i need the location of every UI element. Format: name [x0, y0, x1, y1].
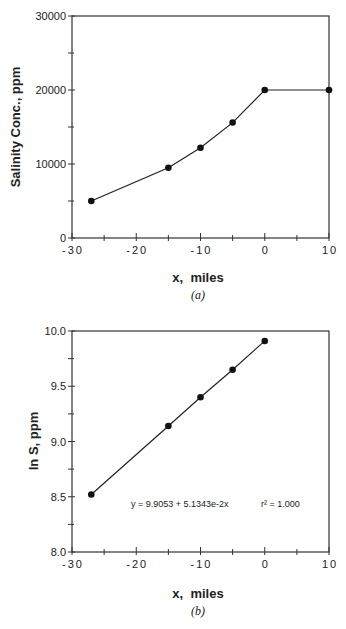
- x-axis-label: x, miles: [172, 586, 223, 601]
- data-point-marker: [197, 394, 204, 401]
- x-tick-label: -20: [126, 244, 148, 256]
- x-tick-label: -20: [126, 558, 148, 570]
- data-point-marker: [88, 491, 95, 498]
- x-tick-labels: -30-20-10010: [62, 558, 338, 570]
- x-tick-label: -30: [62, 558, 84, 570]
- data-point-marker: [165, 164, 172, 171]
- minor-ticks: [68, 331, 329, 555]
- y-tick-labels: 8.08.59.09.510.0: [45, 325, 66, 558]
- data-point-marker: [229, 366, 236, 373]
- x-axis-label: x, miles: [172, 270, 223, 285]
- data-point-marker: [229, 119, 236, 126]
- y-tick-label: 30000: [35, 10, 66, 22]
- y-tick-label: 20000: [35, 84, 66, 96]
- y-axis-label: ln S, ppm: [26, 412, 41, 471]
- data-point-marker: [165, 423, 172, 430]
- x-tick-label: -10: [191, 244, 213, 256]
- chart-panel-b: 8.08.59.09.510.0 -30-20-10010 ln S, ppm …: [26, 325, 338, 618]
- y-tick-labels: 0100002000030000: [35, 10, 66, 244]
- data-point-marker: [326, 87, 333, 94]
- data-series: [88, 338, 268, 498]
- r-squared: r² = 1.000: [261, 499, 300, 509]
- x-tick-labels: -30-20-10010: [62, 244, 338, 256]
- series-line: [91, 341, 264, 495]
- y-tick-label: 10000: [35, 158, 66, 170]
- y-tick-label: 8.5: [51, 491, 66, 503]
- data-series: [88, 87, 332, 205]
- y-tick-label: 10.0: [45, 325, 66, 337]
- y-tick-label: 9.0: [51, 436, 66, 448]
- minor-ticks: [68, 16, 329, 241]
- data-point-marker: [261, 87, 268, 94]
- y-tick-label: 8.0: [51, 546, 66, 558]
- figure: 0100002000030000 -30-20-10010 Salinity C…: [0, 0, 346, 629]
- series-line: [91, 90, 329, 201]
- data-point-marker: [261, 338, 268, 345]
- chart-panel-a: 0100002000030000 -30-20-10010 Salinity C…: [8, 10, 338, 302]
- x-tick-label: -10: [191, 558, 213, 570]
- y-tick-label: 9.5: [51, 380, 66, 392]
- x-tick-label: 0: [262, 558, 270, 570]
- data-point-marker: [197, 144, 204, 151]
- plot-frame: [72, 331, 329, 552]
- x-tick-label: 0: [262, 244, 270, 256]
- panel-caption: (b): [191, 604, 205, 618]
- y-axis-label: Salinity Conc., ppm: [8, 67, 23, 188]
- y-tick-label: 0: [60, 232, 66, 244]
- regression-equation: y = 9.9053 + 5.1343e-2x: [131, 499, 229, 509]
- x-tick-label: 10: [322, 558, 338, 570]
- x-tick-label: 10: [322, 244, 338, 256]
- x-tick-label: -30: [62, 244, 84, 256]
- panel-caption: (a): [191, 288, 205, 302]
- plot-frame: [72, 16, 329, 238]
- data-point-marker: [88, 198, 95, 205]
